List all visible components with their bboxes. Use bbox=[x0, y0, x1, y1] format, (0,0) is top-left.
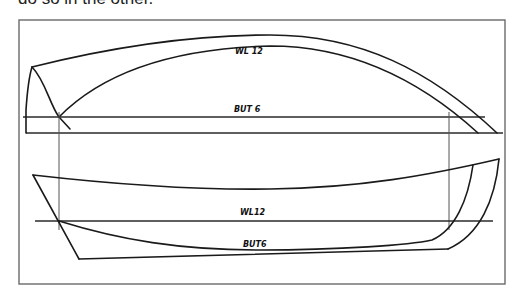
profile-waterline-curve bbox=[59, 46, 478, 133]
profile-bow-curve bbox=[32, 67, 70, 129]
half-breadth-outer-curve bbox=[448, 159, 499, 249]
half-breadth-buttock-curve bbox=[59, 165, 473, 250]
half-breadth-waterline-label: WL12 bbox=[240, 208, 265, 217]
profile-stem bbox=[26, 67, 32, 133]
half-breadth-sheer-line bbox=[33, 159, 499, 189]
profile-buttock-label: BUT 6 bbox=[234, 105, 261, 114]
profile-view: WL 12 BUT 6 bbox=[23, 35, 503, 133]
half-breadth-view: WL12 BUT6 bbox=[33, 159, 499, 259]
half-breadth-bow-line bbox=[33, 175, 79, 259]
lines-drawing: WL 12 BUT 6 WL12 BUT6 bbox=[0, 0, 523, 301]
half-breadth-buttock-label: BUT6 bbox=[243, 240, 267, 249]
profile-waterline-label: WL 12 bbox=[235, 47, 263, 56]
